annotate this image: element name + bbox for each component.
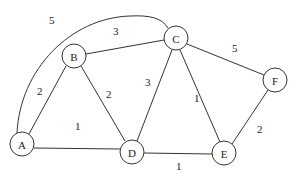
weight-D-E: 1 [176,160,182,172]
weight-B-D: 2 [106,88,112,100]
edge-A-D [34,148,120,149]
edge-C-F [187,44,264,75]
edge-B-D [81,66,125,141]
node-A: A [10,132,34,156]
weight-A-C: 5 [49,14,55,26]
node-B: B [62,44,86,68]
weight-C-F: 5 [232,42,238,54]
svg-text:D: D [128,147,136,159]
weight-C-E: 1 [194,92,200,104]
svg-text:F: F [272,75,278,87]
edge-C-D [137,50,172,141]
node-F: F [263,68,287,92]
edge-D-E [144,153,212,154]
svg-text:C: C [172,33,179,45]
node-D: D [120,140,144,164]
edge-B-C [86,40,164,54]
weighted-graph-diagram: 5 2 1 3 2 3 1 5 1 2 A B C D E F [0,0,296,179]
svg-text:B: B [70,51,77,63]
weight-E-F: 2 [257,123,263,135]
weight-A-B: 2 [37,85,43,97]
node-C: C [164,26,188,50]
svg-text:A: A [18,139,26,151]
weight-A-D: 1 [75,120,81,132]
edge-E-F [232,90,268,144]
graph-canvas: 5 2 1 3 2 3 1 5 1 2 A B C D E F [0,0,296,179]
svg-text:E: E [221,148,228,160]
node-E: E [212,141,236,165]
edge-C-E [180,50,220,142]
weight-B-C: 3 [113,25,119,37]
edge-A-B [29,66,66,134]
weight-C-D: 3 [145,76,151,88]
